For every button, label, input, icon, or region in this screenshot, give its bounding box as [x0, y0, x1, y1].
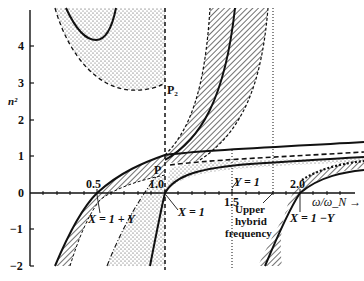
label-y-1: Y = 1	[234, 176, 260, 188]
x-tick-05: 0.5	[86, 178, 101, 190]
x-tick-10: 1.0	[149, 178, 164, 190]
label-point-p2: P₂	[167, 84, 178, 96]
y-tick-4: 4	[18, 40, 24, 52]
y-tick-1: 1	[18, 150, 24, 162]
chart-canvas	[0, 0, 364, 281]
y-axis-label: n²	[8, 96, 17, 107]
y-tick-3: 3	[18, 77, 24, 89]
label-point-p: P	[154, 164, 161, 176]
label-x-1-plus-y: X = 1 + Y	[88, 213, 135, 225]
label-x-1: X = 1	[178, 206, 205, 218]
y-tick-m1: −1	[10, 223, 23, 235]
label-x-1-minus-y: X = 1 −Y	[290, 212, 334, 224]
y-tick-m2: −2	[10, 260, 23, 272]
x-axis-label: ω/ω_N →	[312, 196, 361, 208]
dispersion-chart: 4 3 2 1 0 −1 −2 n² 0.5 1.0 1.5 2.0 ω/ω_N…	[0, 0, 364, 281]
y-tick-0: 0	[18, 187, 24, 199]
y-tick-2: 2	[18, 114, 24, 126]
label-upper-hybrid-1: Upper	[235, 204, 265, 215]
x-tick-20: 2.0	[290, 178, 305, 190]
label-upper-hybrid-3: frequency	[225, 228, 272, 239]
hatched-band-resonance	[165, 8, 268, 165]
label-upper-hybrid-2: hybrid	[235, 216, 267, 227]
